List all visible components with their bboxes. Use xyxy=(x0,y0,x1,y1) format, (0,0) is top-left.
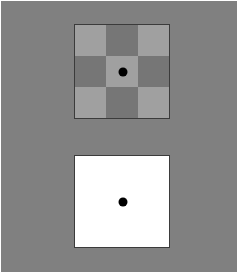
checker-cell-r1c2 xyxy=(138,56,169,87)
checker-grid xyxy=(75,25,169,118)
checker-cell-r1c0 xyxy=(75,56,106,87)
figure-canvas: Simultaneous contrast stimulus pair xyxy=(0,0,244,279)
fixation-dot-icon xyxy=(119,198,128,207)
checker-cell-r2c1 xyxy=(106,87,137,118)
checker-cell-r2c0 xyxy=(75,87,106,118)
checker-cell-r1c1 xyxy=(106,56,137,87)
checker-cell-r0c1 xyxy=(106,25,137,56)
checker-cell-r2c2 xyxy=(138,87,169,118)
uniform-stimulus[interactable] xyxy=(74,155,170,248)
checker-cell-r0c2 xyxy=(138,25,169,56)
checkerboard-stimulus[interactable] xyxy=(74,24,170,119)
checker-cell-r0c0 xyxy=(75,25,106,56)
